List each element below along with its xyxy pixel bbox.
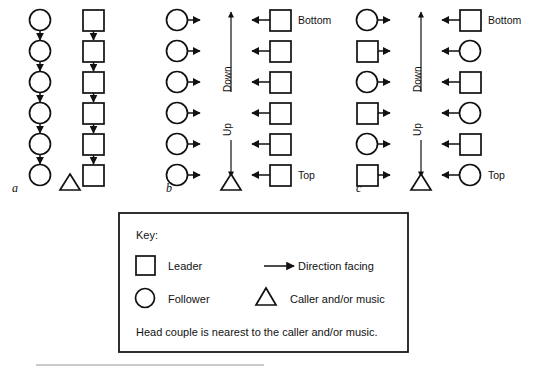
key-leader-square xyxy=(136,256,155,275)
follower-circle xyxy=(30,72,51,93)
follower-circle xyxy=(167,41,188,62)
follower-circle xyxy=(460,103,481,124)
follower-circle xyxy=(30,134,51,155)
follower-circle xyxy=(30,103,51,124)
follower-circle xyxy=(30,41,51,62)
panel-label-b: b xyxy=(166,181,172,195)
leader-square xyxy=(83,103,104,124)
follower-circle xyxy=(460,165,481,186)
row-label-top: Top xyxy=(488,169,505,181)
follower-circle xyxy=(357,72,378,93)
follower-circle xyxy=(357,10,378,31)
follower-circle xyxy=(30,165,51,186)
leader-square xyxy=(270,165,291,186)
panel-c-center-arrows: Down Up xyxy=(412,12,423,177)
panel-b-right-column xyxy=(252,10,291,186)
key-label-follower: Follower xyxy=(168,293,210,305)
dance-formation-diagram: a Down xyxy=(0,0,533,372)
panel-a-right-column xyxy=(83,10,104,186)
leader-square xyxy=(83,10,104,31)
row-label-top: Top xyxy=(298,169,315,181)
caller-triangle xyxy=(411,174,431,190)
panel-b-center-arrows: Down Up xyxy=(222,12,233,177)
leader-square xyxy=(460,134,481,155)
follower-circle xyxy=(167,10,188,31)
leader-square xyxy=(270,134,291,155)
key-follower-circle xyxy=(136,289,155,308)
row-label-bottom: Bottom xyxy=(298,14,332,26)
leader-square xyxy=(270,10,291,31)
key-label-direction-facing: Direction facing xyxy=(298,260,374,272)
key-note: Head couple is nearest to the caller and… xyxy=(136,326,378,338)
panel-b-left-column xyxy=(167,10,201,186)
panel-label-a: a xyxy=(12,181,18,195)
leader-square xyxy=(460,72,481,93)
leader-square xyxy=(270,72,291,93)
leader-square xyxy=(357,103,378,124)
row-label-bottom: Bottom xyxy=(488,14,522,26)
caller-triangle xyxy=(221,174,241,190)
key-heading: Key: xyxy=(136,229,158,241)
follower-circle xyxy=(167,134,188,155)
leader-square xyxy=(83,165,104,186)
center-label-up: Up xyxy=(222,123,233,136)
key-label-caller: Caller and/or music xyxy=(290,293,385,305)
panel-c: Down Up Bottom Top c xyxy=(356,10,522,196)
figure-canvas: a Down xyxy=(0,0,533,372)
leader-square xyxy=(357,41,378,62)
follower-circle xyxy=(357,134,378,155)
leader-square xyxy=(460,10,481,31)
panel-a-left-column xyxy=(30,10,51,186)
follower-circle xyxy=(30,10,51,31)
panel-a: a xyxy=(12,10,104,196)
panel-label-c: c xyxy=(356,181,362,195)
key-box: Key: Leader Direction facing Follower Ca… xyxy=(119,213,408,352)
panel-b: Down Up Bottom Top b xyxy=(166,10,332,196)
caller-triangle xyxy=(60,174,80,190)
leader-square xyxy=(270,103,291,124)
center-label-down: Down xyxy=(412,66,423,92)
leader-square xyxy=(83,72,104,93)
leader-square xyxy=(83,41,104,62)
center-label-up: Up xyxy=(412,123,423,136)
follower-circle xyxy=(460,41,481,62)
key-label-leader: Leader xyxy=(168,260,203,272)
panel-c-left-column xyxy=(357,10,391,187)
follower-circle xyxy=(167,103,188,124)
leader-square xyxy=(83,134,104,155)
panel-c-right-column xyxy=(442,10,481,186)
center-label-down: Down xyxy=(222,66,233,92)
follower-circle xyxy=(167,72,188,93)
leader-square xyxy=(270,41,291,62)
key-caller-triangle xyxy=(256,288,276,305)
